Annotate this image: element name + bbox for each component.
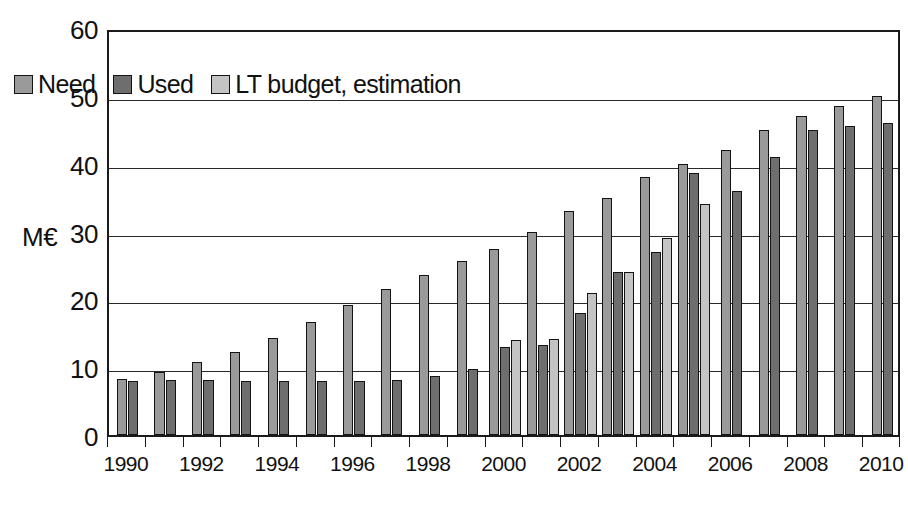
- bar: [279, 381, 289, 435]
- bar: [154, 372, 164, 435]
- bar: [770, 157, 780, 435]
- bar: [587, 293, 597, 435]
- x-axis-tick-label: 1992: [179, 452, 224, 476]
- bar: [575, 313, 585, 435]
- x-axis-tick-mark: [749, 437, 750, 447]
- y-axis-tick-label: 20: [52, 286, 98, 317]
- x-axis-tick-label: 2008: [783, 452, 828, 476]
- x-axis-tick-label: 1990: [104, 452, 149, 476]
- bar-group: [826, 32, 864, 435]
- bar-group: [600, 32, 638, 435]
- bar: [651, 252, 661, 435]
- bar: [381, 289, 391, 435]
- bar-group: [789, 32, 827, 435]
- legend-label: Need: [38, 70, 95, 99]
- bar: [845, 126, 855, 435]
- bar: [549, 339, 559, 435]
- bar: [808, 130, 818, 435]
- bar-group: [751, 32, 789, 435]
- bar: [511, 340, 521, 435]
- bar: [419, 275, 429, 435]
- legend-swatch-icon: [211, 75, 230, 94]
- x-axis-tick-mark: [107, 437, 108, 447]
- x-axis-tick-mark: [485, 437, 486, 447]
- bar: [468, 369, 478, 435]
- x-axis-tick-mark: [787, 437, 788, 447]
- bar: [564, 211, 574, 435]
- x-axis-tick-mark: [220, 437, 221, 447]
- bar-group: [713, 32, 751, 435]
- y-axis-tick-label: 0: [52, 422, 98, 453]
- bar: [230, 352, 240, 435]
- bar: [689, 173, 699, 436]
- legend-swatch-icon: [14, 75, 33, 94]
- x-axis-tick-mark: [598, 437, 599, 447]
- x-axis-tick-mark: [899, 437, 900, 447]
- x-axis-tick-mark: [334, 437, 335, 447]
- y-axis-tick-label: 30: [52, 218, 98, 249]
- bar: [268, 338, 278, 435]
- x-axis-tick-mark: [145, 437, 146, 447]
- bar: [166, 380, 176, 435]
- x-axis-tick-mark: [447, 437, 448, 447]
- x-axis-tick-mark: [183, 437, 184, 447]
- bar: [759, 130, 769, 435]
- bar: [527, 232, 537, 436]
- x-axis-tick-labels: 1990199219941996199820002002200420062008…: [107, 452, 900, 488]
- bar: [241, 381, 251, 435]
- x-axis-tick-label: 2002: [557, 452, 602, 476]
- x-axis-tick-mark: [862, 437, 863, 447]
- bar: [678, 164, 688, 435]
- bar-group: [638, 32, 676, 435]
- bar: [834, 106, 844, 435]
- bar: [489, 249, 499, 435]
- bar: [203, 380, 213, 435]
- x-axis-tick-marks: [107, 437, 900, 449]
- legend-entry: LT budget, estimation: [211, 70, 461, 99]
- legend-label: LT budget, estimation: [235, 70, 461, 99]
- x-axis-tick-mark: [296, 437, 297, 447]
- bar: [430, 376, 440, 435]
- bar: [796, 116, 806, 435]
- x-axis-tick-mark: [258, 437, 259, 447]
- x-axis-tick-mark: [673, 437, 674, 447]
- y-axis-tick-label: 60: [52, 15, 98, 46]
- chart-legend: NeedUsedLT budget, estimation: [14, 70, 472, 99]
- bar: [624, 272, 634, 435]
- x-axis-tick-mark: [824, 437, 825, 447]
- legend-swatch-icon: [113, 75, 132, 94]
- bar: [662, 238, 672, 435]
- bar: [872, 96, 882, 435]
- bar-group: [487, 32, 525, 435]
- bar: [721, 150, 731, 435]
- x-axis-tick-mark: [522, 437, 523, 447]
- x-axis-tick-mark: [371, 437, 372, 447]
- x-axis-tick-label: 2000: [481, 452, 526, 476]
- x-axis-tick-mark: [711, 437, 712, 447]
- bar: [732, 191, 742, 435]
- bar: [700, 204, 710, 435]
- bar: [117, 379, 127, 435]
- bar: [457, 261, 467, 435]
- bar-group: [864, 32, 902, 435]
- bar: [602, 198, 612, 435]
- bar: [306, 322, 316, 435]
- bar: [392, 380, 402, 435]
- bar: [500, 347, 510, 435]
- bar: [317, 381, 327, 435]
- x-axis-tick-label: 2010: [859, 452, 904, 476]
- x-axis-tick-mark: [636, 437, 637, 447]
- bar-group: [524, 32, 562, 435]
- bar: [343, 305, 353, 435]
- x-axis-tick-label: 1998: [406, 452, 451, 476]
- bar: [613, 272, 623, 435]
- x-axis-tick-mark: [409, 437, 410, 447]
- x-axis-tick-label: 2004: [632, 452, 677, 476]
- bar: [640, 177, 650, 435]
- y-axis-tick-label: 40: [52, 150, 98, 181]
- bar-group: [675, 32, 713, 435]
- x-axis-tick-label: 1994: [255, 452, 300, 476]
- bar: [354, 381, 364, 435]
- legend-entry: Need: [14, 70, 95, 99]
- x-axis-tick-mark: [560, 437, 561, 447]
